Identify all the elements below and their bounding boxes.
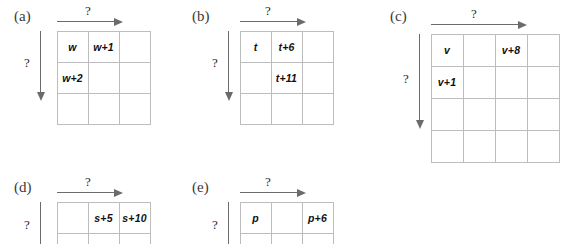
grid-line-horizontal (57, 31, 151, 32)
arrow-head (297, 189, 306, 197)
grid-line-vertical (88, 31, 89, 124)
panel-d-horizontal-arrow (57, 188, 123, 197)
panel-e-horizontal-question-mark: ? (265, 175, 271, 188)
grid-line-horizontal (431, 98, 560, 99)
panel-b-vertical-question-mark: ? (212, 56, 218, 69)
panel-e-vertical-question-mark: ? (212, 218, 218, 231)
arrow-shaft (40, 202, 41, 244)
panel-a-label: (a) (14, 9, 31, 24)
arrow-head (37, 92, 45, 101)
panel-d-horizontal-question-mark: ? (85, 175, 91, 188)
arrow-shaft (240, 21, 297, 22)
panel-d-vertical-arrow (36, 202, 45, 244)
arrow-shaft (419, 34, 420, 120)
grid-line-horizontal (57, 233, 151, 234)
arrow-shaft (57, 21, 114, 22)
grid-line-vertical (57, 31, 58, 124)
grid-line-horizontal (431, 66, 560, 67)
grid-line-vertical (57, 202, 58, 244)
panel-b-vertical-arrow (224, 31, 233, 101)
cell-value: p (252, 212, 259, 223)
cell-value: w (68, 41, 76, 52)
cell-value: t+6 (278, 41, 294, 52)
grid-line-horizontal (57, 93, 151, 94)
grid-line-vertical (240, 202, 241, 244)
arrow-shaft (57, 192, 114, 193)
panel-a-horizontal-arrow (57, 17, 123, 26)
arrow-head (225, 92, 233, 101)
panel-c-horizontal-arrow (431, 20, 527, 29)
panel-c-horizontal-question-mark: ? (471, 7, 477, 20)
grid-line-horizontal (240, 202, 334, 203)
arrow-head (114, 189, 123, 197)
grid-line-horizontal (57, 202, 151, 203)
cell-value: v+1 (438, 77, 456, 88)
panel-e-label: (e) (192, 180, 209, 195)
arrow-shaft (228, 31, 229, 92)
panel-a-horizontal-question-mark: ? (85, 4, 91, 17)
grid-line-horizontal (431, 34, 560, 35)
grid-line-vertical (119, 31, 120, 124)
cell-value: t+11 (276, 72, 297, 83)
grid-line-vertical (271, 31, 272, 124)
panel-b-label: (b) (192, 9, 210, 24)
grid-line-horizontal (240, 62, 334, 63)
panel-e-vertical-arrow (224, 202, 233, 244)
grid-line-horizontal (240, 31, 334, 32)
cell-value: s+5 (94, 212, 112, 223)
arrow-shaft (240, 192, 297, 193)
grid-line-horizontal (57, 62, 151, 63)
arrow-head (297, 18, 306, 26)
grid-line-horizontal (431, 130, 560, 131)
cell-value: s+10 (122, 212, 146, 223)
arrow-head (416, 120, 424, 129)
grid-line-horizontal (431, 162, 560, 163)
panel-a-vertical-question-mark: ? (24, 56, 30, 69)
panel-d-label: (d) (14, 180, 32, 195)
panel-e-horizontal-arrow (240, 188, 306, 197)
panel-d-vertical-question-mark: ? (24, 218, 30, 231)
cell-value: t (254, 41, 258, 52)
panel-b-horizontal-question-mark: ? (265, 4, 271, 17)
arrow-shaft (40, 31, 41, 92)
arrow-head (114, 18, 123, 26)
panel-b-horizontal-arrow (240, 17, 306, 26)
grid-line-vertical (271, 202, 272, 244)
grid-line-vertical (150, 202, 151, 244)
cell-value: p+6 (308, 212, 327, 223)
grid-line-vertical (150, 31, 151, 124)
panel-a-vertical-arrow (36, 31, 45, 101)
grid-line-horizontal (240, 233, 334, 234)
grid-line-vertical (333, 31, 334, 124)
panel-c-vertical-question-mark: ? (403, 72, 409, 85)
cell-value: w+1 (93, 41, 114, 52)
arrow-shaft (431, 24, 518, 25)
cell-value: v (444, 45, 450, 56)
grid-line-vertical (302, 202, 303, 244)
grid-line-vertical (240, 31, 241, 124)
grid-line-vertical (119, 202, 120, 244)
arrow-head (518, 21, 527, 29)
grid-line-vertical (88, 202, 89, 244)
panel-c-vertical-arrow (415, 34, 424, 129)
panel-c-label: (c) (390, 9, 407, 24)
arrow-shaft (228, 202, 229, 244)
grid-line-horizontal (240, 124, 334, 125)
cell-value: v+8 (502, 45, 520, 56)
grid-line-vertical (333, 202, 334, 244)
cell-value: w+2 (62, 72, 83, 83)
grid-line-horizontal (240, 93, 334, 94)
grid-line-vertical (302, 31, 303, 124)
grid-line-horizontal (57, 124, 151, 125)
